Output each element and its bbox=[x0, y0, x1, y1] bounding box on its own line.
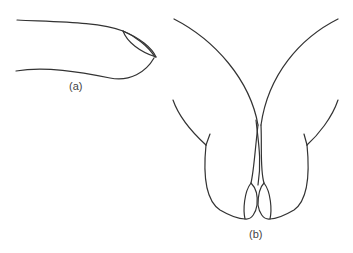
left-thumb-notch bbox=[206, 134, 210, 145]
left-arc-lower bbox=[173, 100, 206, 145]
left-nail bbox=[244, 183, 257, 219]
finger-bottom-contour bbox=[16, 58, 154, 79]
panel-b-label: (b) bbox=[249, 228, 262, 240]
fingernail-outer bbox=[123, 31, 156, 57]
right-arc-lower bbox=[307, 100, 338, 145]
fingernail-inner bbox=[123, 31, 156, 57]
right-nail bbox=[258, 183, 271, 219]
right-finger-contour bbox=[270, 145, 308, 219]
panel-b-fingers bbox=[173, 19, 338, 219]
right-center-line bbox=[261, 125, 264, 183]
diagram-canvas bbox=[0, 0, 353, 253]
left-finger-contour bbox=[205, 145, 245, 219]
right-arc-outer bbox=[261, 19, 338, 125]
panel-a-label: (a) bbox=[69, 80, 82, 92]
panel-a-finger bbox=[16, 20, 156, 79]
left-arc-outer bbox=[174, 19, 258, 125]
finger-top-contour bbox=[17, 20, 155, 57]
right-thumb-notch bbox=[304, 134, 307, 145]
